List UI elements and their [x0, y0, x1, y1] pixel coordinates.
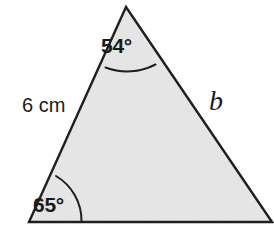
- right-side-variable-label: b: [209, 87, 223, 115]
- triangle-figure: c 54° 65° 6 cm b: [0, 0, 274, 243]
- left-side-length-label: 6 cm: [22, 95, 65, 115]
- apex-angle-label: 54°: [101, 35, 132, 56]
- bottom-left-angle-label: 65°: [33, 194, 64, 215]
